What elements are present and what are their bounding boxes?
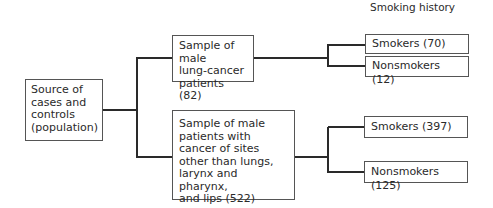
other-nonsmokers-box: Nonsmokers (125): [364, 161, 468, 183]
smoking-history-heading: Smoking history: [370, 1, 455, 13]
other-smokers-box: Smokers (397): [364, 116, 468, 138]
other-cancer-sample-box: Sample of male patients with cancer of s…: [172, 110, 295, 200]
source-population-box: Source of cases and controls (population…: [25, 79, 103, 141]
lung-smokers-box: Smokers (70): [365, 34, 469, 54]
lung-nonsmokers-box: Nonsmokers (12): [365, 56, 469, 77]
lung-cancer-sample-box: Sample of male lung-cancer patients (82): [172, 35, 254, 82]
